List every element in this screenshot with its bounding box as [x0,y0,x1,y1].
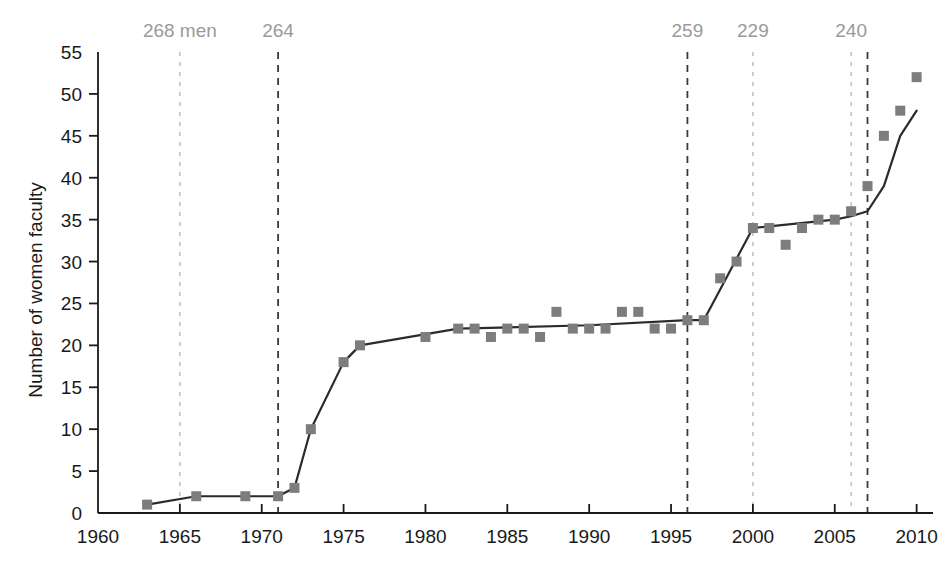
y-tick-label: 35 [61,210,82,231]
data-point-marker [568,324,578,334]
chart-container: 268 men264259229240 05101520253035404550… [0,0,948,569]
x-tick-label: 1985 [486,526,528,547]
data-point-marker [830,215,840,225]
x-tick-label: 2005 [814,526,856,547]
y-tick-label: 5 [71,461,82,482]
x-tick-label: 1990 [568,526,610,547]
data-point-marker [781,240,791,250]
data-point-marker [846,206,856,216]
data-point-marker [617,307,627,317]
data-point-marker [699,315,709,325]
data-point-marker [535,332,545,342]
chart-background [0,0,948,569]
data-point-marker [895,106,905,116]
data-point-marker [519,324,529,334]
y-tick-label: 45 [61,126,82,147]
x-tick-label: 1995 [650,526,692,547]
data-point-marker [666,324,676,334]
annotation-label: 268 men [143,20,217,41]
data-point-marker [764,223,774,233]
y-axis-title-group: Number of women faculty [25,182,46,398]
data-point-marker [339,357,349,367]
data-point-marker [470,324,480,334]
y-tick-label: 50 [61,84,82,105]
x-tick-label: 1980 [404,526,446,547]
data-point-marker [879,131,889,141]
y-tick-label: 55 [61,42,82,63]
x-tick-label: 1975 [322,526,364,547]
data-point-marker [748,223,758,233]
data-point-marker [486,332,496,342]
y-tick-label: 25 [61,293,82,314]
data-point-marker [584,324,594,334]
data-point-marker [633,307,643,317]
annotation-label: 240 [835,20,867,41]
data-point-marker [502,324,512,334]
data-point-marker [355,340,365,350]
y-tick-label: 40 [61,168,82,189]
y-tick-label: 15 [61,377,82,398]
x-tick-label: 2000 [732,526,774,547]
y-tick-label: 20 [61,335,82,356]
data-point-marker [715,273,725,283]
data-point-marker [601,324,611,334]
annotation-label: 264 [262,20,294,41]
data-point-marker [142,500,152,510]
x-tick-label: 1965 [159,526,201,547]
data-point-marker [863,181,873,191]
annotation-label: 259 [672,20,704,41]
x-tick-label: 2010 [895,526,937,547]
data-point-marker [453,324,463,334]
data-point-marker [682,315,692,325]
y-tick-label: 30 [61,252,82,273]
x-tick-label: 1960 [77,526,119,547]
y-axis-title: Number of women faculty [25,182,46,398]
faculty-line-chart: 268 men264259229240 05101520253035404550… [0,0,948,569]
data-point-marker [273,491,283,501]
data-point-marker [289,483,299,493]
x-tick-label: 1970 [241,526,283,547]
data-point-marker [813,215,823,225]
y-tick-label: 10 [61,419,82,440]
data-point-marker [191,491,201,501]
data-point-marker [306,424,316,434]
data-point-marker [420,332,430,342]
data-point-marker [797,223,807,233]
annotation-label: 229 [737,20,769,41]
data-point-marker [551,307,561,317]
data-point-marker [732,257,742,267]
data-point-marker [650,324,660,334]
data-point-marker [240,491,250,501]
data-point-marker [912,72,922,82]
y-tick-label: 0 [71,503,82,524]
